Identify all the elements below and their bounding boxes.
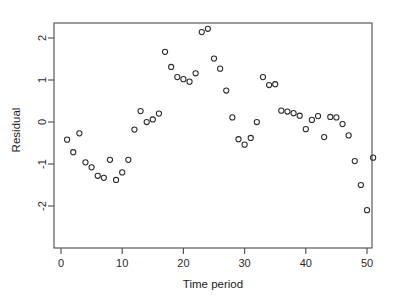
y-tick-label: 2 xyxy=(36,35,48,41)
data-point xyxy=(328,114,333,119)
data-point xyxy=(193,71,198,76)
data-point xyxy=(101,175,106,180)
data-point xyxy=(187,79,192,84)
scatter-plot-figure: 01020304050 -2-1012 Time period Residual xyxy=(0,0,394,300)
data-point xyxy=(144,119,149,124)
data-point xyxy=(248,135,253,140)
data-point xyxy=(175,74,180,79)
data-point xyxy=(77,131,82,136)
data-point xyxy=(346,133,351,138)
data-point xyxy=(273,82,278,87)
y-axis-ticks: -2-1012 xyxy=(36,35,54,211)
data-point xyxy=(138,108,143,113)
y-tick-label: 0 xyxy=(36,119,48,125)
plot-canvas: 01020304050 -2-1012 Time period Residual xyxy=(0,0,394,300)
data-point xyxy=(297,113,302,118)
data-point xyxy=(218,66,223,71)
data-point xyxy=(150,117,155,122)
x-axis-ticks: 01020304050 xyxy=(58,248,373,269)
data-point xyxy=(89,165,94,170)
data-point xyxy=(334,115,339,120)
x-tick-label: 0 xyxy=(58,257,64,269)
y-tick-label: 1 xyxy=(36,77,48,83)
data-point xyxy=(322,135,327,140)
data-point xyxy=(358,182,363,187)
data-point xyxy=(371,155,376,160)
data-point xyxy=(95,173,100,178)
y-tick-label: -2 xyxy=(36,201,48,211)
data-point xyxy=(230,115,235,120)
data-point xyxy=(181,77,186,82)
data-point xyxy=(303,127,308,132)
data-point xyxy=(169,64,174,69)
data-point xyxy=(132,127,137,132)
x-tick-label: 40 xyxy=(300,257,312,269)
data-point xyxy=(352,158,357,163)
x-tick-label: 20 xyxy=(177,257,189,269)
data-point xyxy=(126,157,131,162)
data-point xyxy=(242,142,247,147)
data-point xyxy=(107,157,112,162)
x-tick-label: 50 xyxy=(361,257,373,269)
x-axis-label: Time period xyxy=(183,278,243,290)
y-tick-label: -1 xyxy=(36,159,48,169)
data-point xyxy=(309,117,314,122)
data-point xyxy=(83,160,88,165)
data-point xyxy=(205,26,210,31)
data-point xyxy=(279,108,284,113)
data-point xyxy=(156,111,161,116)
data-point xyxy=(71,150,76,155)
data-point xyxy=(260,74,265,79)
data-point xyxy=(291,111,296,116)
x-tick-label: 30 xyxy=(238,257,250,269)
data-point xyxy=(254,119,259,124)
data-point xyxy=(199,30,204,35)
data-point xyxy=(266,82,271,87)
data-point xyxy=(162,49,167,54)
data-point xyxy=(224,88,229,93)
data-point xyxy=(340,122,345,127)
data-point xyxy=(364,208,369,213)
data-points-layer xyxy=(65,26,376,213)
data-point xyxy=(236,137,241,142)
data-point xyxy=(211,56,216,61)
data-point xyxy=(315,114,320,119)
data-point xyxy=(120,170,125,175)
data-point xyxy=(113,177,118,182)
x-tick-label: 10 xyxy=(116,257,128,269)
data-point xyxy=(285,109,290,114)
data-point xyxy=(65,137,70,142)
y-axis-label: Residual xyxy=(10,108,22,153)
